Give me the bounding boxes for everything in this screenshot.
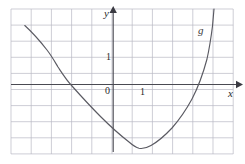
y-axis-label: y <box>104 8 109 19</box>
x-axis-arrowhead <box>236 81 243 88</box>
graph-canvas <box>0 0 245 164</box>
x-axis-label: x <box>228 88 233 99</box>
y-axis <box>110 6 117 152</box>
x-axis <box>11 81 243 88</box>
curve-label-g: g <box>198 25 204 36</box>
y-axis-arrowhead <box>110 6 117 13</box>
x-axis-tick-label-1: 1 <box>140 87 145 97</box>
y-axis-tick-label-1: 1 <box>106 52 111 62</box>
origin-tick-label: 0 <box>105 86 110 96</box>
function-graph-figure: y x 0 1 1 g <box>0 0 245 164</box>
curve-g <box>25 9 214 148</box>
